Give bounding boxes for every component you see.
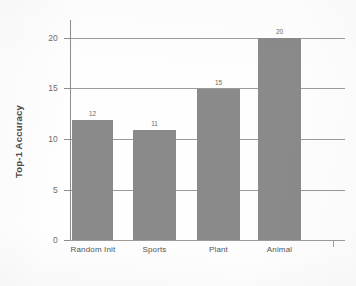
y-tick-20 — [64, 38, 70, 39]
bar-plant — [197, 89, 240, 240]
y-axis-title-wrap: Top-1 Accuracy — [0, 108, 38, 148]
y-tick-label-0: 0 — [30, 235, 58, 245]
bar-random-init — [72, 120, 113, 240]
x-axis-spine — [70, 240, 345, 241]
y-tick-label-15: 15 — [30, 83, 58, 93]
x-tick-label-sports: Sports — [122, 245, 187, 254]
y-axis-spine — [70, 20, 71, 241]
y-tick-0 — [64, 240, 70, 241]
bar-value-random-init: 12 — [72, 110, 113, 117]
y-tick-5 — [64, 190, 70, 191]
y-tick-10 — [64, 139, 70, 140]
gridline-20 — [70, 38, 345, 39]
bar-animal — [258, 38, 301, 240]
y-tick-15 — [64, 88, 70, 89]
x-tick-label-plant: Plant — [186, 245, 251, 254]
y-axis-title: Top-1 Accuracy — [13, 92, 24, 192]
x-tick-label-animal: Animal — [247, 245, 312, 254]
bar-sports — [133, 130, 176, 240]
y-tick-label-5: 5 — [30, 185, 58, 195]
bar-value-sports: 11 — [133, 120, 176, 127]
x-axis-end-tick — [333, 241, 334, 247]
bar-value-plant: 15 — [197, 79, 240, 86]
bar-chart: 20 15 10 5 0 Top-1 Accuracy 12 11 15 20 … — [0, 0, 356, 286]
bar-value-animal: 20 — [258, 28, 301, 35]
y-tick-label-20: 20 — [30, 33, 58, 43]
x-tick-label-random-init: Random Init — [58, 245, 128, 254]
